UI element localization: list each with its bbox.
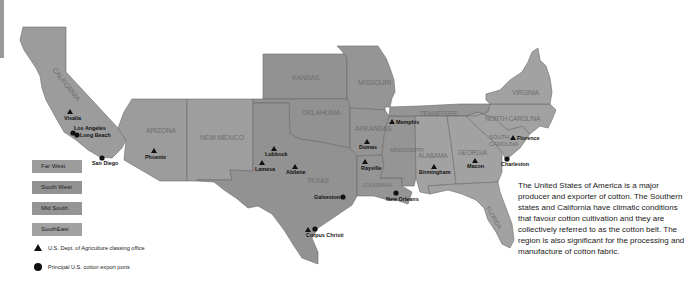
city-florence[interactable]: Florence <box>517 135 539 141</box>
legend-region-far-west: Far West <box>32 160 82 173</box>
legend-classing-office-label: U.S. Dept. of Agriculture classing offic… <box>48 245 145 251</box>
city-lamesa[interactable]: Lamesa <box>255 166 276 172</box>
city-macon[interactable]: Macon <box>467 163 484 169</box>
label-south-carolina-1: SOUTH <box>489 134 509 140</box>
description-text: The United States of America is a major … <box>518 180 685 257</box>
circle-icon <box>34 263 42 271</box>
map-legend: Far West South West Mid South SouthEast … <box>32 160 145 283</box>
city-phoenix[interactable]: Phoenix <box>145 154 166 160</box>
city-los-angeles[interactable]: Los Angeles <box>74 125 106 131</box>
state-florida[interactable] <box>428 182 514 248</box>
city-long-beach[interactable]: Long Beach <box>80 132 111 138</box>
label-missouri: MISSOURI <box>358 79 391 86</box>
label-north-carolina: NORTH CAROLINA <box>485 115 541 122</box>
label-tennessee: TENNESSEE <box>420 110 458 117</box>
city-lubbock[interactable]: Lubbock <box>265 151 287 157</box>
label-virginia: VIRGINIA <box>512 89 540 96</box>
city-charleston[interactable]: Charleston <box>501 161 529 167</box>
legend-region-southeast: SouthEast <box>32 223 82 236</box>
label-louisiana: LOUISIANA <box>362 182 392 188</box>
export-port-icon <box>393 190 398 195</box>
city-corpus-christi[interactable]: Corpus Christi <box>306 232 344 238</box>
city-galveston[interactable]: Galveston <box>314 194 340 200</box>
city-new-orleans[interactable]: New Orleans <box>386 196 419 202</box>
city-abilene[interactable]: Abilene <box>286 169 305 175</box>
legend-export-port-label: Principal U.S. cotton export ports <box>48 264 130 270</box>
label-south-carolina-2: CAROLINA <box>489 141 518 147</box>
triangle-icon <box>34 244 42 251</box>
label-oklahoma: OKLAHOMA <box>302 109 341 116</box>
label-texas: TEXAS <box>307 177 329 184</box>
legend-region-mid-south: Mid South <box>32 202 82 215</box>
city-memphis[interactable]: Memphis <box>396 119 419 125</box>
city-rayville[interactable]: Rayville <box>361 165 381 171</box>
export-port-icon <box>74 132 79 137</box>
city-visalia[interactable]: Visalia <box>64 115 82 121</box>
export-port-icon <box>340 194 345 199</box>
label-arkansas: ARKANSAS <box>355 125 392 132</box>
label-arizona: ARIZONA <box>146 127 176 134</box>
legend-export-port: Principal U.S. cotton export ports <box>32 263 145 271</box>
label-alabama: ALABAMA <box>418 152 448 159</box>
legend-region-south-west: South West <box>32 181 82 194</box>
city-dumas[interactable]: Dumas <box>359 144 377 150</box>
export-port-icon <box>312 226 317 231</box>
legend-classing-office: U.S. Dept. of Agriculture classing offic… <box>32 244 145 251</box>
city-birmingham[interactable]: Birmingham <box>419 169 451 175</box>
label-new-mexico: NEW MEXICO <box>200 134 245 141</box>
label-kansas: KANSAS <box>292 74 320 81</box>
label-georgia: GEORGIA <box>458 149 488 156</box>
